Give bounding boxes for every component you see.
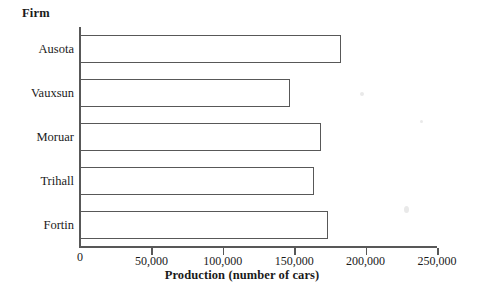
bar-chart: Firm AusotaVauxsunMoruarTrihallFortin 05… — [0, 0, 484, 291]
bar-moruar — [80, 123, 321, 151]
category-label-ausota: Ausota — [2, 42, 74, 57]
category-label-fortin: Fortin — [2, 218, 74, 233]
x-tick-label-200000: 200,000 — [346, 254, 385, 269]
category-label-moruar: Moruar — [2, 130, 74, 145]
bar-ausota — [80, 35, 341, 63]
plot-area — [80, 27, 437, 247]
bar-trihall — [80, 167, 314, 195]
x-tick-label-250000: 250,000 — [418, 254, 457, 269]
bar-vauxsun — [80, 79, 290, 107]
x-axis-title: Production (number of cars) — [0, 268, 484, 283]
bar-fortin — [80, 211, 328, 239]
category-label-trihall: Trihall — [2, 174, 74, 189]
x-tick-label-150000: 150,000 — [275, 254, 314, 269]
x-tick-label-50000: 50,000 — [135, 254, 168, 269]
x-tick-label-0: 0 — [77, 250, 83, 265]
x-tick-label-100000: 100,000 — [203, 254, 242, 269]
category-label-group: AusotaVauxsunMoruarTrihallFortin — [0, 0, 74, 291]
category-label-vauxsun: Vauxsun — [2, 86, 74, 101]
